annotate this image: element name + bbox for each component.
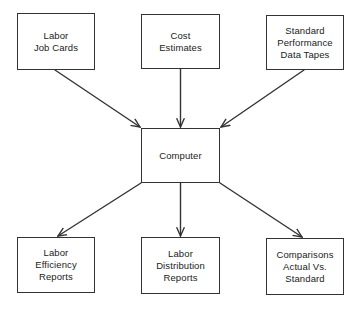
node-cost-estimates: Cost Estimates xyxy=(141,14,220,69)
node-labor-distribution-reports: Labor Distribution Reports xyxy=(141,237,220,294)
flowchart-diagram: Labor Job Cards Cost Estimates Standard … xyxy=(0,0,362,309)
node-label: Comparisons Actual Vs. Standard xyxy=(276,249,333,285)
arrow-computer-to-comparisons xyxy=(220,183,302,237)
node-label: Labor Distribution Reports xyxy=(156,248,205,284)
node-label: Computer xyxy=(159,150,202,162)
node-computer: Computer xyxy=(141,128,220,183)
arrow-labor-job-cards-to-computer xyxy=(55,70,140,127)
node-label: Labor Efficiency Reports xyxy=(35,247,76,283)
node-label: Standard Performance Data Tapes xyxy=(277,25,332,61)
node-standard-performance-data-tapes: Standard Performance Data Tapes xyxy=(266,15,344,70)
arrow-standard-performance-to-computer xyxy=(221,70,304,127)
node-labor-job-cards: Labor Job Cards xyxy=(17,13,95,70)
node-comparisons-actual-vs-standard: Comparisons Actual Vs. Standard xyxy=(266,238,344,295)
arrow-computer-to-labor-efficiency xyxy=(58,183,141,236)
node-labor-efficiency-reports: Labor Efficiency Reports xyxy=(17,237,95,293)
node-label: Cost Estimates xyxy=(159,30,202,54)
node-label: Labor Job Cards xyxy=(34,30,78,54)
